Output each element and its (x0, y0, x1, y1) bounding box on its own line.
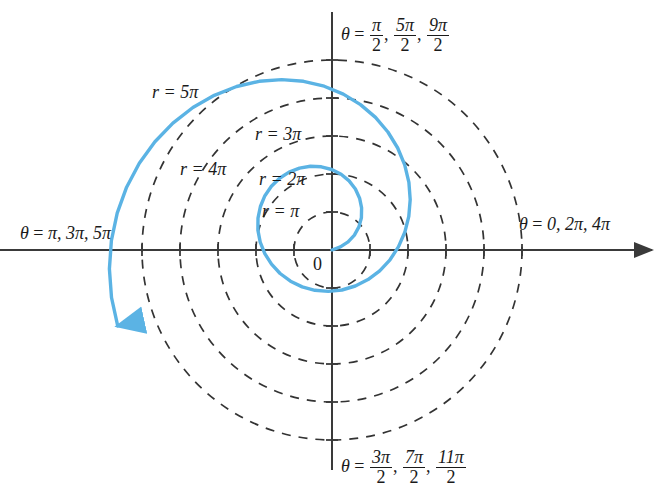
theta-symbol-bottom: θ (341, 456, 350, 476)
equals-bottom: = (354, 456, 364, 476)
fraction-7pi-over-2: 7π2 (403, 448, 425, 487)
theta-symbol-top: θ (341, 24, 350, 44)
spiral-curve (109, 80, 410, 326)
origin-label: 0 (313, 255, 322, 273)
radius-label-4pi: r = 4π (180, 160, 226, 178)
theta-symbol-right: θ (519, 214, 528, 234)
spiral-plot-svg (0, 0, 670, 499)
fraction-5pi-over-2: 5π2 (394, 16, 416, 55)
axis-label-left: θ = π, 3π, 5π (20, 224, 111, 242)
axis-label-bottom: θ = 3π2, 7π2, 11π2 (341, 448, 467, 487)
fraction-11pi-over-2: 11π2 (436, 448, 466, 487)
radius-label-5pi: r = 5π (152, 83, 198, 101)
radius-label-3pi: r = 3π (255, 125, 301, 143)
axis-label-left-values: π, 3π, 5π (48, 223, 111, 243)
axis-label-top: θ = π2, 5π2, 9π2 (341, 16, 450, 55)
equals-left: = (33, 223, 43, 243)
radius-label-pi: r = π (262, 202, 299, 220)
comma-top-1: , (384, 24, 389, 44)
radius-label-2pi: r = 2π (259, 170, 305, 188)
theta-symbol-left: θ (20, 223, 29, 243)
equals-right: = (532, 214, 542, 234)
fraction-3pi-over-2: 3π2 (370, 448, 392, 487)
axis-label-right: θ = 0, 2π, 4π (519, 215, 610, 233)
comma-bottom-1: , (393, 456, 398, 476)
comma-top-2: , (417, 24, 422, 44)
axis-label-right-values: 0, 2π, 4π (547, 214, 610, 234)
equals-top: = (354, 24, 364, 44)
comma-bottom-2: , (426, 456, 431, 476)
fraction-9pi-over-2: 9π2 (427, 16, 449, 55)
polar-spiral-figure: θ = π2, 5π2, 9π2 θ = 3π2, 7π2, 11π2 θ = … (0, 0, 670, 499)
fraction-pi-over-2: π2 (370, 16, 383, 55)
